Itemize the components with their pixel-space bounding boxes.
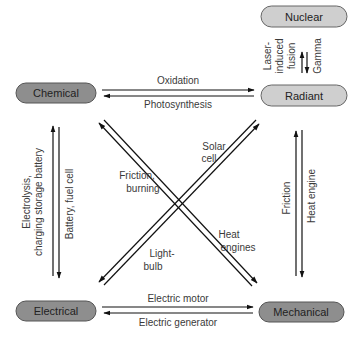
label-laser: Laser-: [262, 42, 273, 70]
label-friction-comma: Friction,: [119, 170, 155, 181]
energy-conversion-diagram: Nuclear Radiant Chemical Electrical Mech…: [0, 0, 356, 339]
label-battery-fuel-cell: Battery, fuel cell: [64, 169, 75, 239]
label-engines: engines: [220, 242, 255, 253]
node-electrical-label: Electrical: [34, 305, 79, 317]
node-electrical: Electrical: [16, 301, 96, 321]
label-friction: Friction: [281, 182, 292, 215]
node-radiant-label: Radiant: [285, 90, 323, 102]
label-fusion: fusion: [286, 43, 297, 70]
label-gamma: Gamma: [312, 38, 323, 74]
node-chemical-label: Chemical: [33, 87, 79, 99]
label-cell: cell: [201, 153, 216, 164]
node-mechanical-label: Mechanical: [273, 306, 329, 318]
label-heat: Heat: [218, 229, 239, 240]
node-nuclear-label: Nuclear: [285, 11, 323, 23]
node-radiant: Radiant: [261, 85, 347, 106]
label-oxidation: Oxidation: [157, 75, 199, 86]
node-mechanical: Mechanical: [259, 302, 344, 322]
label-electric-motor: Electric motor: [147, 293, 209, 304]
label-bulb: bulb: [144, 261, 163, 272]
label-electric-generator: Electric generator: [139, 317, 218, 328]
node-chemical: Chemical: [16, 83, 96, 103]
node-nuclear: Nuclear: [261, 6, 347, 27]
label-solar: Solar: [202, 141, 226, 152]
arrow-heat-engines: [104, 120, 257, 283]
label-light: Light-: [149, 248, 174, 259]
label-burning: burning: [126, 183, 159, 194]
label-charging-storage-battery: charging storage battery: [33, 148, 44, 256]
label-photosynthesis: Photosynthesis: [144, 99, 212, 110]
label-heat-engine: Heat engine: [306, 169, 317, 223]
label-induced: induced: [274, 38, 285, 73]
label-electrolysis: Electrolysis,: [21, 175, 32, 228]
